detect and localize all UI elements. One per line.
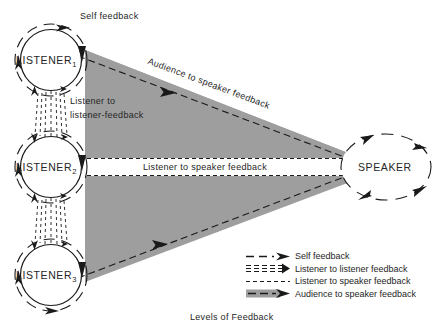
listener-1-text: LISTENER [16,54,72,66]
legend-label-self-feedback: Self feedback [295,251,350,261]
audience-to-speaker-wedge-upper [85,50,370,164]
listener-to-listener-label-line1: Listener to [70,96,115,106]
legend-item-audience-to-speaker: Audience to speaker feedback [246,288,416,301]
listener-3-node-label: LISTENER3 [16,269,76,284]
listener-1-subscript: 1 [72,60,76,69]
legend-key-fine-dashed [246,276,290,287]
levels-of-feedback-diagram: LISTENER1 LISTENER2 LISTENER3 SPEAKER Se… [0,0,445,335]
listener-to-speaker-label: Listener to speaker feedback [143,162,267,172]
self-feedback-label: Self feedback [80,11,138,21]
figure-caption: Levels of Feedback [190,312,273,322]
listener-2-subscript: 2 [72,167,76,176]
listener-2-node-label: LISTENER2 [16,161,76,176]
listener-3-subscript: 3 [72,275,76,284]
legend-key-dashed-arrow [246,251,290,262]
speaker-node-label: SPEAKER [358,161,412,173]
listener-2-text: LISTENER [16,161,72,173]
listener-3-text: LISTENER [16,269,72,281]
legend-key-double-dashed-band [246,263,290,274]
legend-label-listener-to-listener: Listener to listener feedback [295,264,408,274]
legend-item-self-feedback: Self feedback [246,250,416,263]
legend-label-listener-to-speaker: Listener to speaker feedback [295,276,411,286]
legend-label-audience-to-speaker: Audience to speaker feedback [295,289,416,299]
listener-to-listener-label-line2: listener-feedback [70,110,144,120]
legend: Self feedback Listener to listener feedb… [246,250,416,300]
legend-item-listener-to-listener: Listener to listener feedback [246,263,416,276]
legend-key-gray-band-arrow [246,288,290,299]
legend-item-listener-to-speaker: Listener to speaker feedback [246,275,416,288]
listener-1-node-label: LISTENER1 [16,54,76,69]
